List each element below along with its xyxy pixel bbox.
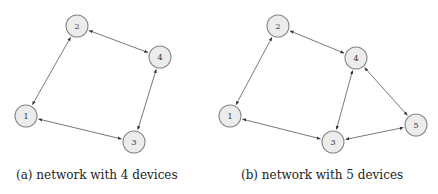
svg-text:2: 2 (74, 22, 79, 31)
svg-text:1: 1 (227, 112, 232, 121)
edge-b-4-5 (365, 68, 408, 116)
node-a-1: 1 (15, 105, 37, 127)
edge-b-2-4 (290, 31, 344, 53)
nodes-layer: 123412345 (15, 15, 427, 153)
edge-b-3-5 (346, 128, 404, 140)
node-b-4: 4 (345, 47, 367, 69)
caption-network-5-devices: (b) network with 5 devices (241, 168, 403, 182)
node-b-5: 5 (405, 114, 427, 136)
edge-b-1-2 (236, 37, 272, 104)
node-b-2: 2 (267, 15, 289, 37)
svg-text:4: 4 (157, 53, 162, 62)
network-diagrams: 123412345 (0, 0, 438, 194)
edge-a-2-4 (89, 31, 148, 53)
caption-network-4-devices: (a) network with 4 devices (16, 168, 178, 182)
edge-a-1-2 (32, 37, 70, 104)
svg-text:2: 2 (275, 22, 280, 31)
node-a-3: 3 (123, 131, 145, 153)
node-b-1: 1 (219, 105, 241, 127)
edge-a-1-3 (39, 119, 122, 139)
node-a-4: 4 (149, 46, 171, 68)
svg-text:5: 5 (413, 121, 418, 130)
svg-text:4: 4 (353, 54, 358, 63)
svg-text:3: 3 (330, 138, 335, 147)
edge-b-1-3 (243, 119, 321, 139)
node-b-3: 3 (322, 131, 344, 153)
edge-a-4-3 (138, 69, 156, 129)
svg-text:1: 1 (23, 112, 28, 121)
svg-text:3: 3 (131, 138, 136, 147)
node-a-2: 2 (66, 15, 88, 37)
edge-b-4-3 (336, 71, 352, 130)
edges-layer (32, 31, 407, 140)
